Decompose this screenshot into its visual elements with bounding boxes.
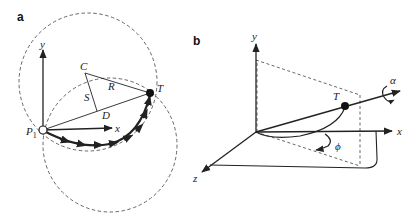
panel-b: b y x z ϕ α T [192,30,402,184]
center-label-C: C [80,60,88,72]
target-point-T [341,102,349,110]
x-axis-arrow [256,131,392,132]
trajectory-arc [44,95,150,145]
radius-label-R: R [107,80,115,92]
target-label-T: T [157,82,164,94]
y-axis-label: y [251,30,257,42]
x-axis-arrow [43,128,112,130]
start-label-P1: P1 [25,125,37,140]
sagitta-label-S: S [84,91,90,103]
arc-arrowhead [136,127,140,131]
dashed-top-projection [256,60,360,95]
panel-a: a y x C R S D P1 T [17,10,177,212]
alpha-label: α [390,74,396,86]
panel-a-label: a [17,10,24,24]
target-point-T [146,89,154,97]
trajectory-curve [256,107,345,137]
radius-line-R [85,73,150,93]
target-label-T: T [333,90,340,102]
y-axis-label: y [39,38,45,50]
x-axis-label: x [114,122,120,134]
phi-label: ϕ [335,140,341,152]
phi-angle-arrow [316,134,330,150]
arc-arrowhead [108,143,114,144]
z-axis-label: z [192,172,198,184]
start-point-P1 [39,126,47,134]
panel-b-label: b [193,34,200,48]
chord-line-D [43,93,150,130]
x-axis-label: x [396,125,402,137]
chord-label-D: D [101,109,110,121]
figure-canvas: a y x C R S D P1 T b [0,0,416,223]
